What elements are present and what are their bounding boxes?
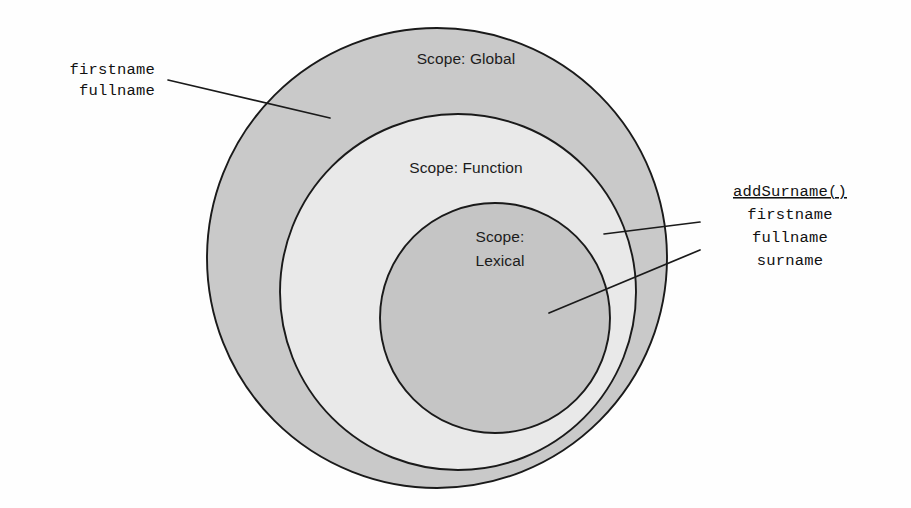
annotation-function-variables: addSurname()firstnamefullnamesurname — [733, 183, 847, 270]
annotation-line: fullname — [752, 229, 828, 247]
scope-diagram: Scope: Global Scope: Function Scope:Lexi… — [0, 0, 911, 508]
annotation-global-variables: firstnamefullname — [69, 61, 155, 100]
label-scope-global: Scope: Global — [417, 50, 516, 67]
label-scope-function: Scope: Function — [409, 159, 523, 176]
annotation-line: addSurname() — [733, 183, 847, 201]
annotation-line: firstname — [69, 61, 155, 79]
annotation-line: fullname — [79, 82, 155, 100]
annotation-line: firstname — [747, 206, 833, 224]
annotation-line: surname — [757, 252, 824, 270]
scope-diagram-canvas: Scope: Global Scope: Function Scope:Lexi… — [0, 0, 911, 508]
